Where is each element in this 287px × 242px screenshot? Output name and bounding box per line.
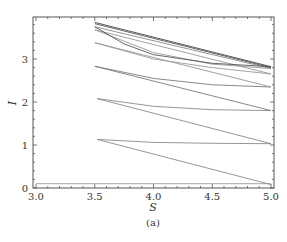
x-tick-label: 4.5 [204,191,220,202]
series-line-s3a [95,66,271,110]
axis-ticks: 3.03.54.04.55.00123 [22,17,279,202]
y-tick-label: 3 [22,54,28,65]
y-tick-label: 2 [22,97,28,108]
series-line-s2b [97,99,271,111]
figure-caption: (a) [146,217,160,228]
line-chart: 3.03.54.04.55.00123 S I (a) [0,0,287,242]
series-line-s3b [95,66,271,87]
series-line-s5a [95,30,271,74]
y-tick-label: 1 [22,140,28,151]
x-tick-label: 3.0 [28,191,44,202]
y-axis-label: I [6,100,19,106]
series-line-s1a [97,139,271,184]
y-tick-label: 0 [22,183,28,194]
x-tick-label: 5.0 [263,191,279,202]
plot-series [36,22,271,184]
series-line-s6a [95,27,271,69]
series-line-s7a [95,22,271,66]
series-line-s1b [97,139,271,143]
x-tick-label: 3.5 [87,191,103,202]
series-line-s2a [97,99,271,144]
series-line-s7b [95,24,271,68]
x-axis-label: S [149,201,157,214]
